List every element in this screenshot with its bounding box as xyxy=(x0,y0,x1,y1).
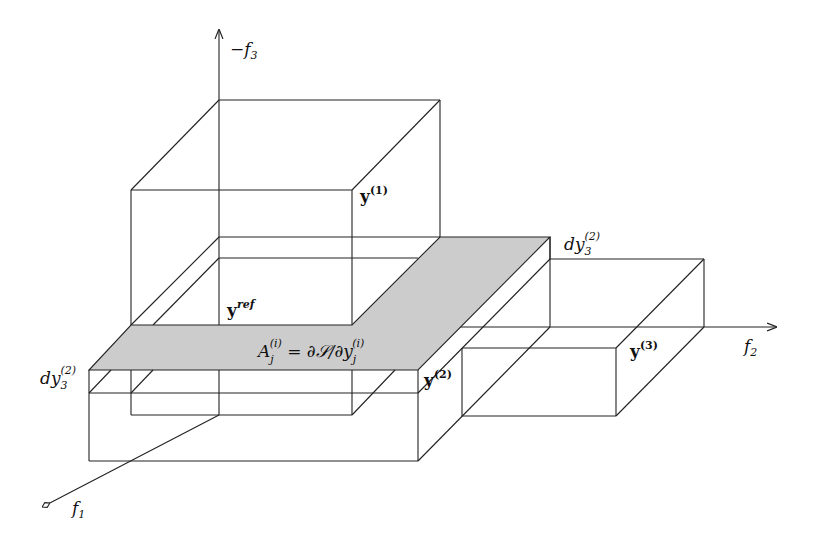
label-y3: y(3) xyxy=(629,339,658,361)
label-dy-left: dy3(2) xyxy=(40,364,76,392)
pareto-hypervolume-diagram: −f3 f2 f1 y(1) y(2) y(3) yref dy3(2) dy3… xyxy=(0,0,814,542)
axis-f3-label: −f3 xyxy=(230,39,258,62)
axis-f1 xyxy=(46,415,219,505)
label-dy-top: dy3(2) xyxy=(564,230,600,258)
label-y2: y(2) xyxy=(423,368,452,390)
label-y1: y(1) xyxy=(359,184,388,206)
axis-f2-label: f2 xyxy=(742,336,757,359)
label-yref: yref xyxy=(226,298,257,320)
axis-f1-label: f1 xyxy=(70,498,85,521)
